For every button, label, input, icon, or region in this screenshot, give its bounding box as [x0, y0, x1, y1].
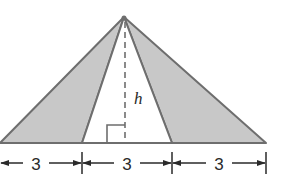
segment-1-label: 3 — [31, 155, 40, 174]
dimension-segment-2: 3 — [83, 155, 171, 174]
triangle-diagram: h 3 3 3 — [0, 0, 285, 176]
segment-2-label: 3 — [122, 155, 131, 174]
apex-point — [122, 16, 127, 21]
dimension-segment-1: 3 — [1, 155, 81, 174]
height-label: h — [134, 89, 143, 108]
dimension-segment-3: 3 — [173, 155, 265, 174]
segment-3-label: 3 — [214, 155, 223, 174]
